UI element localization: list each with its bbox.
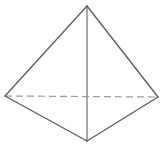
tetrahedron-figure-canvas: Tetrahedron wireframe line drawing Wiref… [0, 0, 164, 148]
edge-apex-right [87, 6, 158, 97]
tetrahedron-svg: Tetrahedron wireframe line drawing Wiref… [0, 0, 164, 148]
edge-apex-left [5, 6, 87, 96]
hidden-edge-left-right [5, 96, 158, 97]
edge-left-bottom [5, 96, 87, 141]
edge-right-bottom [87, 97, 158, 141]
hidden-edge-group [5, 96, 158, 97]
outline-edge-group [5, 6, 158, 141]
